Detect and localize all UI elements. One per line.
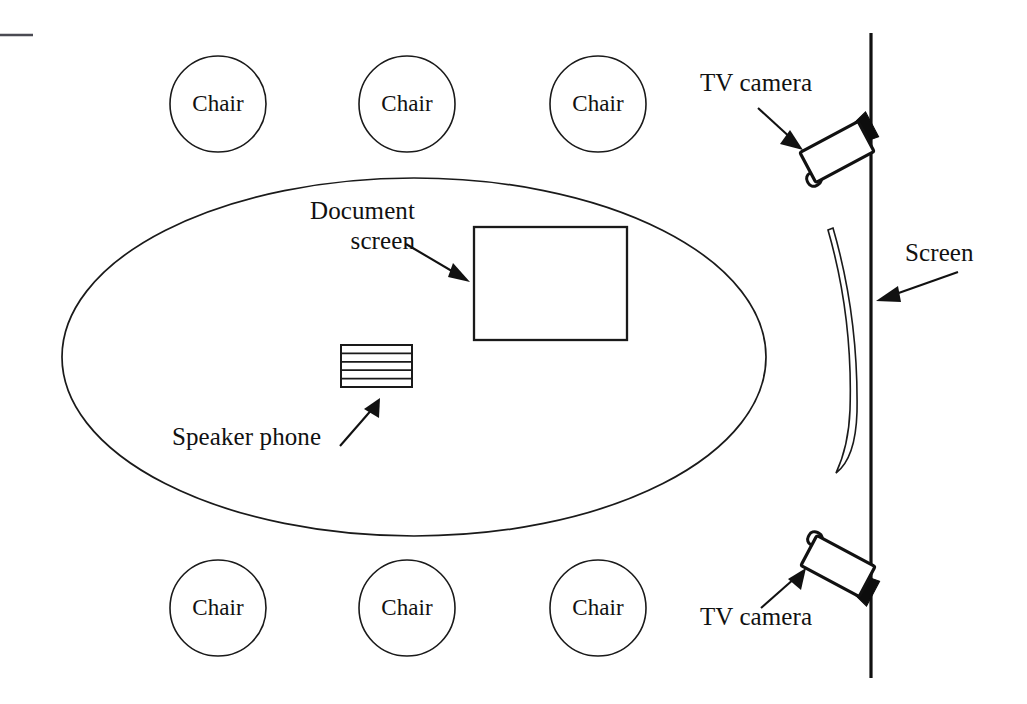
room-layout-diagram: Chair Chair Chair Chair Chair Chair Docu… [0,0,1027,704]
chair-label-top-center: Chair [347,92,467,115]
speaker-phone-shape [341,345,412,387]
chair-label-top-left: Chair [158,92,278,115]
chair-label-bottom-center: Chair [347,596,467,619]
document-screen-label-line2: screen [250,226,415,256]
document-screen-shape [474,227,627,340]
chair-label-bottom-left: Chair [158,596,278,619]
chair-label-top-right: Chair [538,92,658,115]
tv-camera-bottom-label: TV camera [700,602,812,632]
tv-camera-top-label: TV camera [700,68,812,98]
screen-leader [876,272,958,302]
projection-screen-shape [828,228,857,473]
screen-label: Screen [905,238,974,268]
speaker-phone-label: Speaker phone [172,422,321,452]
document-screen-label-line1: Document [250,196,415,226]
tv-camera-top-leader [758,108,803,150]
diagram-canvas [0,0,1027,704]
chair-label-bottom-right: Chair [538,596,658,619]
